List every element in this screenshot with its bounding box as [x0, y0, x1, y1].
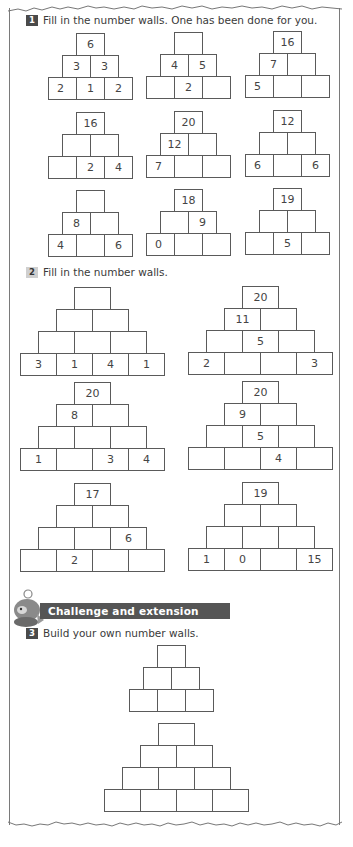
number-brick: 6 — [110, 527, 147, 550]
empty-brick-input[interactable] — [56, 309, 93, 332]
empty-brick-input[interactable] — [188, 447, 225, 470]
number-brick: 20 — [74, 382, 111, 405]
number-brick: 12 — [160, 133, 189, 156]
empty-brick-input[interactable] — [260, 548, 297, 571]
empty-brick-input[interactable] — [296, 447, 333, 470]
empty-brick-input[interactable] — [104, 789, 141, 812]
empty-brick-input[interactable] — [74, 527, 111, 550]
empty-brick-input[interactable] — [206, 330, 243, 353]
empty-brick-input[interactable] — [140, 789, 177, 812]
empty-brick-input[interactable] — [202, 233, 231, 256]
empty-brick-input[interactable] — [158, 723, 195, 746]
empty-brick-input[interactable] — [287, 132, 316, 155]
empty-brick-input[interactable] — [129, 689, 158, 712]
empty-brick-input[interactable] — [90, 212, 119, 235]
empty-brick-input[interactable] — [174, 233, 203, 256]
empty-brick-input[interactable] — [90, 134, 119, 157]
empty-brick-input[interactable] — [110, 331, 147, 354]
empty-brick-input[interactable] — [242, 526, 279, 549]
number-brick: 19 — [273, 188, 302, 211]
empty-brick-input[interactable] — [76, 190, 105, 213]
empty-brick-input[interactable] — [174, 32, 203, 55]
empty-brick-input[interactable] — [76, 234, 105, 257]
empty-brick-input[interactable] — [273, 75, 302, 98]
empty-brick-input[interactable] — [158, 767, 195, 790]
empty-brick-input[interactable] — [287, 210, 316, 233]
empty-brick-input[interactable] — [278, 425, 315, 448]
empty-brick-input[interactable] — [259, 210, 288, 233]
number-brick: 1 — [56, 353, 93, 376]
empty-brick-input[interactable] — [92, 309, 129, 332]
empty-brick-input[interactable] — [128, 549, 165, 572]
empty-brick-input[interactable] — [202, 155, 231, 178]
empty-brick-input[interactable] — [259, 132, 288, 155]
number-brick: 15 — [296, 548, 333, 571]
empty-brick-input[interactable] — [160, 211, 189, 234]
empty-brick-input[interactable] — [260, 403, 297, 426]
empty-brick-input[interactable] — [174, 155, 203, 178]
number-brick: 20 — [242, 381, 279, 404]
empty-brick-input[interactable] — [224, 352, 261, 375]
empty-brick-input[interactable] — [188, 133, 217, 156]
number-brick: 4 — [128, 448, 165, 471]
empty-brick-input[interactable] — [157, 689, 186, 712]
number-brick: 5 — [188, 54, 217, 77]
number-brick: 5 — [242, 425, 279, 448]
empty-brick-input[interactable] — [92, 505, 129, 528]
empty-brick-input[interactable] — [56, 505, 93, 528]
empty-brick-input[interactable] — [110, 426, 147, 449]
number-brick: 7 — [146, 155, 175, 178]
number-brick: 3 — [90, 55, 119, 78]
empty-brick-input[interactable] — [38, 331, 75, 354]
empty-brick-input[interactable] — [20, 549, 57, 572]
empty-brick-input[interactable] — [176, 745, 213, 768]
empty-brick-input[interactable] — [260, 308, 297, 331]
empty-brick-input[interactable] — [176, 789, 213, 812]
empty-brick-input[interactable] — [206, 425, 243, 448]
number-brick: 3 — [62, 55, 91, 78]
empty-brick-input[interactable] — [185, 689, 214, 712]
empty-brick-input[interactable] — [140, 745, 177, 768]
empty-brick-input[interactable] — [74, 426, 111, 449]
empty-brick-input[interactable] — [38, 527, 75, 550]
empty-brick-input[interactable] — [56, 448, 93, 471]
empty-brick-input[interactable] — [287, 53, 316, 76]
number-brick: 3 — [92, 448, 129, 471]
question-1-heading: 1 Fill in the number walls. One has been… — [26, 14, 317, 26]
empty-brick-input[interactable] — [146, 76, 175, 99]
number-brick: 6 — [104, 234, 133, 257]
empty-brick-input[interactable] — [143, 667, 172, 690]
empty-brick-input[interactable] — [202, 76, 231, 99]
empty-brick-input[interactable] — [74, 287, 111, 310]
empty-brick-input[interactable] — [212, 789, 249, 812]
empty-brick-input[interactable] — [194, 767, 231, 790]
empty-brick-input[interactable] — [273, 154, 302, 177]
number-brick: 1 — [20, 448, 57, 471]
empty-brick-input[interactable] — [260, 352, 297, 375]
empty-brick-input[interactable] — [157, 645, 186, 668]
empty-brick-input[interactable] — [38, 426, 75, 449]
number-brick: 2 — [188, 352, 225, 375]
empty-brick-input[interactable] — [74, 331, 111, 354]
number-brick: 0 — [146, 233, 175, 256]
empty-brick-input[interactable] — [122, 767, 159, 790]
empty-brick-input[interactable] — [92, 549, 129, 572]
empty-brick-input[interactable] — [301, 232, 330, 255]
number-brick: 2 — [104, 77, 133, 100]
empty-brick-input[interactable] — [48, 156, 77, 179]
empty-brick-input[interactable] — [171, 667, 200, 690]
question-number-badge: 2 — [26, 267, 38, 278]
empty-brick-input[interactable] — [260, 504, 297, 527]
empty-brick-input[interactable] — [206, 526, 243, 549]
empty-brick-input[interactable] — [278, 330, 315, 353]
empty-brick-input[interactable] — [245, 232, 274, 255]
empty-brick-input[interactable] — [301, 75, 330, 98]
empty-brick-input[interactable] — [92, 404, 129, 427]
empty-brick-input[interactable] — [224, 504, 261, 527]
empty-brick-input[interactable] — [278, 526, 315, 549]
empty-brick-input[interactable] — [224, 447, 261, 470]
number-brick: 1 — [188, 548, 225, 571]
number-brick: 2 — [174, 76, 203, 99]
question-number-badge: 3 — [26, 628, 38, 639]
empty-brick-input[interactable] — [62, 134, 91, 157]
